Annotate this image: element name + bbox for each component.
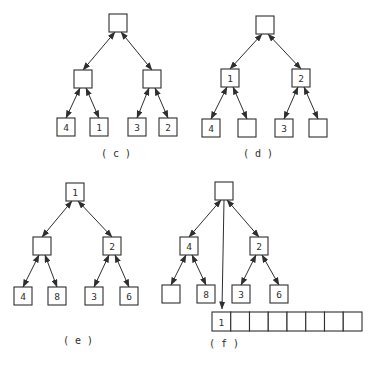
tree-c-node-l (74, 70, 92, 88)
array-cell-4 (287, 312, 306, 331)
edge-f-r-rr (262, 255, 279, 285)
tree-e-node-lr-value: 8 (54, 291, 60, 302)
edge-e-l-ll (23, 255, 39, 287)
tree-c-node-ll-value: 4 (63, 122, 69, 133)
edge-f-r-rl (241, 255, 256, 285)
tree-e-node-r-value: 2 (109, 241, 115, 252)
tree-c-node-rr-value: 2 (165, 122, 171, 133)
root-to-array-arrow (222, 200, 224, 309)
array-cell-0-value: 1 (219, 317, 225, 328)
edge-d-root-l (230, 34, 262, 69)
tree-c-node-root (109, 14, 127, 32)
panel-f: 428361( f ) (162, 182, 362, 349)
edge-d-r-rl (284, 87, 298, 119)
tree-d-node-l-value: 1 (227, 73, 233, 84)
edge-c-root-r (121, 32, 152, 70)
tree-f-node-rr-value: 6 (276, 289, 282, 300)
tree-e-node-l (33, 237, 51, 255)
panel-e: 124836( e ) (14, 183, 138, 346)
edge-d-l-lr (233, 87, 247, 119)
tree-d-node-rr (309, 119, 327, 137)
panel-label-d: ( d ) (243, 148, 273, 159)
edge-d-root-r (268, 34, 301, 69)
edge-e-l-lr (45, 255, 57, 287)
figure-canvas: 4132( c )1243( d )124836( e )428361( f ) (0, 0, 376, 367)
tree-f-node-lr-value: 8 (203, 289, 209, 300)
edge-c-r-rl (137, 88, 149, 118)
tree-c-node-lr-value: 1 (96, 122, 102, 133)
tree-e-node-ll-value: 4 (20, 291, 26, 302)
tree-c-node-r (143, 70, 161, 88)
edge-f-root-r (227, 200, 259, 237)
edge-e-r-rl (94, 255, 109, 287)
edge-f-l-ll (171, 255, 186, 285)
edge-e-r-rr (115, 255, 129, 287)
array-cell-2 (250, 312, 269, 331)
tree-d-node-rl-value: 3 (281, 123, 287, 134)
edge-d-l-ll (211, 87, 227, 119)
tree-f-node-l-value: 4 (186, 241, 192, 252)
panel-c: 4132( c ) (57, 14, 177, 159)
tree-f-node-ll (162, 285, 180, 303)
tree-e-node-rl-value: 3 (91, 291, 97, 302)
tree-e-node-rr-value: 6 (126, 291, 132, 302)
panel-label-f: ( f ) (209, 338, 239, 349)
tree-d-node-ll-value: 4 (208, 123, 214, 134)
binary-tree-diagram: 4132( c )1243( d )124836( e )428361( f ) (0, 0, 376, 367)
edge-c-root-l (83, 32, 115, 70)
edge-f-l-lr (192, 255, 206, 285)
panel-label-e: ( e ) (63, 335, 93, 346)
array-cell-6 (325, 312, 344, 331)
tree-d-node-r-value: 2 (298, 73, 304, 84)
tree-f-node-root (215, 182, 233, 200)
tree-d-node-root (256, 16, 274, 34)
edge-e-root-l (42, 201, 72, 237)
tree-f-node-r-value: 2 (256, 241, 262, 252)
tree-f-node-rl-value: 3 (238, 289, 244, 300)
tree-d-node-lr (238, 119, 256, 137)
array-cell-1 (231, 312, 250, 331)
array-cell-5 (306, 312, 325, 331)
edge-f-root-l (189, 200, 221, 237)
edge-c-l-ll (66, 88, 80, 118)
edge-c-r-rr (155, 88, 168, 118)
edge-c-l-lr (86, 88, 99, 118)
edge-d-r-rr (304, 87, 318, 119)
array-cell-7 (343, 312, 362, 331)
tree-c-node-rl-value: 3 (134, 122, 140, 133)
panel-d: 1243( d ) (202, 16, 327, 159)
edge-e-root-r (78, 201, 112, 237)
panel-label-c: ( c ) (101, 148, 131, 159)
array-cell-3 (268, 312, 287, 331)
tree-e-node-root-value: 1 (72, 187, 78, 198)
